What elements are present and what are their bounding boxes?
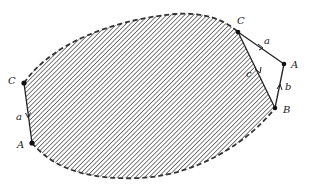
left-vertex-a-dot — [29, 140, 34, 145]
right-label-edge-a: a — [264, 35, 270, 46]
right-vertex-b-dot — [273, 106, 278, 111]
diagram: C a A C a A b B c — [0, 0, 309, 186]
left-vertex-c-dot — [21, 80, 26, 85]
right-edge-ab — [275, 64, 284, 108]
right-label-c: C — [237, 15, 245, 26]
diagram-canvas: C a A C a A b B c — [0, 0, 309, 186]
right-label-a: A — [290, 59, 298, 70]
hatched-region — [24, 14, 275, 179]
left-label-a: A — [16, 139, 24, 150]
right-vertex-c-dot — [236, 30, 241, 35]
right-label-b: B — [282, 104, 290, 115]
right-label-edge-c: c — [246, 68, 252, 79]
right-label-edge-b: b — [285, 81, 291, 92]
left-label-edge-a: a — [16, 111, 22, 122]
right-vertex-a-dot — [282, 62, 287, 67]
left-label-c: C — [8, 75, 16, 86]
